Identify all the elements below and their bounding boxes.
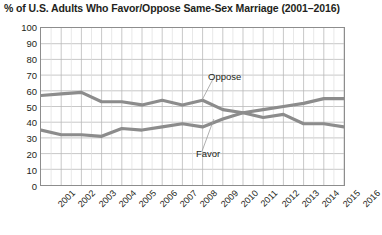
x-tick-label: 2013 (300, 188, 321, 209)
y-tick-label: 70 (1, 69, 37, 80)
y-tick-label: 0 (1, 181, 37, 192)
y-tick-label: 40 (1, 117, 37, 128)
y-tick-label: 10 (1, 165, 37, 176)
x-tick-label: 2003 (97, 188, 118, 209)
x-tick-label: 2005 (137, 188, 158, 209)
y-axis-tick-labels: 1009080706050403020100 (0, 27, 37, 186)
y-tick-label: 30 (1, 133, 37, 144)
chart-title: % of U.S. Adults Who Favor/Oppose Same-S… (4, 2, 364, 14)
x-tick-label: 2011 (259, 188, 280, 209)
x-tick-label: 2001 (56, 188, 77, 209)
series-annotation-favor: Favor (196, 148, 220, 159)
x-tick-label: 2012 (280, 188, 301, 209)
y-tick-label: 20 (1, 149, 37, 160)
x-tick-label: 2006 (158, 188, 179, 209)
x-tick-label: 2004 (117, 188, 138, 209)
x-axis-tick-labels: 2001200220032004200520062007200820092010… (40, 188, 345, 234)
y-tick-label: 90 (1, 37, 37, 48)
series-annotation-oppose: Oppose (208, 71, 241, 82)
y-tick-label: 80 (1, 53, 37, 64)
x-tick-label: 2016 (361, 188, 382, 209)
plot-area (40, 27, 345, 186)
x-tick-label: 2009 (219, 188, 240, 209)
x-tick-label: 2014 (320, 188, 341, 209)
x-tick-label: 2008 (198, 188, 219, 209)
x-tick-label: 2007 (178, 188, 199, 209)
grid-and-series-layer (41, 28, 344, 185)
x-tick-label: 2002 (76, 188, 97, 209)
y-tick-label: 50 (1, 101, 37, 112)
x-tick-label: 2010 (239, 188, 260, 209)
y-tick-label: 100 (1, 22, 37, 33)
y-tick-label: 60 (1, 85, 37, 96)
x-tick-label: 2015 (341, 188, 362, 209)
